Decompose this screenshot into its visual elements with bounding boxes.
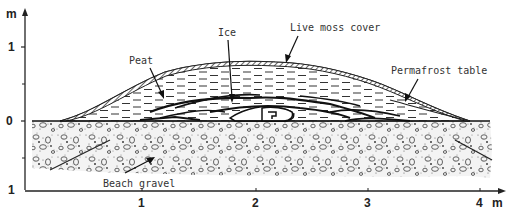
label-beach-gravel: Beach gravel [103,178,175,189]
moss-arrow-icon [285,54,291,63]
x-tick-label-3: 3 [364,196,371,210]
x-axis: 1 2 3 4 m [25,188,506,210]
x-tick-label-1: 1 [138,196,145,210]
x-axis-unit: m [492,196,503,210]
y-axis: m 1 0 1 [6,7,28,197]
x-axis-arrow-icon [498,188,506,194]
y-tick-label-zero: 0 [6,114,13,128]
x-tick-label-4: 4 [476,196,483,210]
y-tick-label-bottom: 1 [8,183,15,197]
palsa-cross-section-diagram: m 1 0 1 1 2 3 4 m [0,0,515,217]
label-ice: Ice [218,27,236,38]
gravel-stipple [32,121,492,178]
label-peat: Peat [129,55,153,66]
label-permafrost-table: Permafrost table [391,65,487,76]
label-moss-group: Live moss cover [285,22,380,63]
x-tick-label-2: 2 [252,196,259,210]
y-axis-unit: m [6,7,17,21]
y-axis-arrow-icon [22,8,28,16]
label-permafrost-group: Permafrost table [391,65,487,102]
label-live-moss-cover: Live moss cover [290,22,380,33]
y-tick-label-top: 1 [8,40,15,54]
